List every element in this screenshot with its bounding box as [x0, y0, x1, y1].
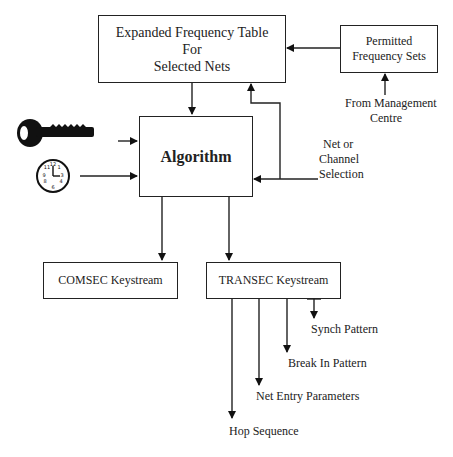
- synch-pattern-label: Synch Pattern: [311, 322, 378, 337]
- comsec-keystream-box: COMSEC Keystream: [43, 262, 178, 299]
- net-line2: Channel: [319, 152, 364, 167]
- break-in-pattern-label: Break In Pattern: [288, 356, 367, 371]
- svg-text:11: 11: [44, 164, 50, 170]
- key-icon: [17, 119, 94, 147]
- transec-keystream-box: TRANSEC Keystream: [206, 262, 341, 299]
- net-selection-label: Net or Channel Selection: [319, 137, 364, 182]
- clock-icon: 12369 14118: [37, 160, 69, 192]
- permitted-frequency-box: Permitted Frequency Sets: [340, 25, 438, 73]
- frequency-table-box: Expanded Frequency Table For Selected Ne…: [98, 15, 286, 83]
- net-line3: Selection: [319, 167, 364, 182]
- mgmt-line1: From Management: [345, 96, 427, 111]
- freq-line3: Selected Nets: [154, 58, 231, 75]
- svg-text:1: 1: [57, 164, 60, 170]
- freq-line2: For: [182, 41, 201, 58]
- algorithm-box: Algorithm: [139, 116, 253, 197]
- mgmt-line2: Centre: [345, 111, 427, 126]
- management-centre-label: From Management Centre: [345, 96, 427, 126]
- svg-text:8: 8: [43, 178, 46, 184]
- net-entry-parameters-label: Net Entry Parameters: [256, 389, 359, 404]
- permitted-line2: Frequency Sets: [352, 49, 426, 64]
- freq-line1: Expanded Frequency Table: [116, 24, 269, 41]
- comsec-label: COMSEC Keystream: [58, 273, 162, 288]
- svg-text:6: 6: [51, 184, 54, 190]
- transec-label: TRANSEC Keystream: [219, 273, 329, 288]
- svg-text:4: 4: [59, 178, 62, 184]
- hop-sequence-label: Hop Sequence: [229, 424, 299, 439]
- permitted-line1: Permitted: [366, 34, 413, 49]
- algorithm-label: Algorithm: [160, 148, 231, 166]
- net-line1: Net or: [319, 137, 364, 152]
